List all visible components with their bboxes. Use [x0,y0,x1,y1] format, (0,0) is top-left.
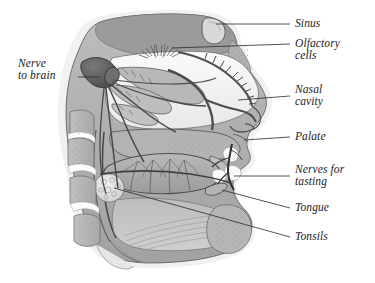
label-tongue: Tongue [295,202,329,214]
label-nerve-to-brain-line2: to brain [18,70,56,82]
label-nerves-for-tasting: Nerves for tasting [295,164,344,188]
label-tongue-line1: Tongue [295,202,329,214]
label-palate-line1: Palate [295,131,326,143]
label-olfactory-cells: Olfactory cells [295,38,340,62]
tonsils [95,174,124,202]
label-nerves-for-tasting-line2: tasting [295,176,344,188]
label-olfactory-cells-line2: cells [295,50,340,62]
anatomy-figure: Sinus Olfactory cells Nasal cavity Palat… [0,0,375,283]
label-nerve-to-brain: Nerve to brain [18,58,56,82]
mandible [207,205,252,254]
label-tonsils: Tonsils [295,231,328,243]
label-tonsils-line1: Tonsils [295,231,328,243]
label-sinus: Sinus [295,18,320,30]
label-palate: Palate [295,131,326,143]
label-nasal-cavity-line2: cavity [295,96,323,108]
label-sinus-line1: Sinus [295,18,320,30]
label-nasal-cavity: Nasal cavity [295,84,323,108]
